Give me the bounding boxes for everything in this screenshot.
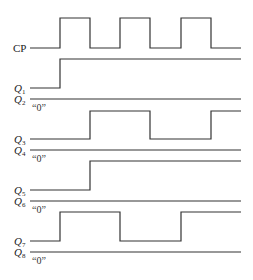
label-subscript: 6 bbox=[22, 201, 26, 209]
waveforms bbox=[30, 18, 241, 252]
label-subscript: 2 bbox=[22, 99, 26, 107]
label-subscript: 5 bbox=[22, 190, 26, 198]
timing-diagram: CPQ1Q2“0”Q3Q4“0”Q5Q6“0”Q7Q8“0” bbox=[0, 0, 253, 280]
waveform-cp bbox=[30, 18, 241, 48]
label-subscript: 1 bbox=[22, 88, 26, 96]
label-subscript: 8 bbox=[22, 252, 26, 260]
constant-zero-note: “0” bbox=[32, 204, 46, 215]
signal-labels: CPQ1Q2“0”Q3Q4“0”Q5Q6“0”Q7Q8“0” bbox=[13, 42, 46, 266]
waveform-q1 bbox=[30, 59, 241, 88]
waveform-q7 bbox=[30, 212, 241, 241]
constant-zero-note: “0” bbox=[32, 153, 46, 164]
label-subscript: 3 bbox=[22, 139, 26, 147]
constant-zero-note: “0” bbox=[32, 102, 46, 113]
waveform-q3 bbox=[30, 111, 241, 139]
label-subscript: 4 bbox=[22, 150, 26, 158]
label-subscript: 7 bbox=[22, 241, 26, 249]
constant-zero-note: “0” bbox=[32, 255, 46, 266]
waveform-q5 bbox=[30, 161, 241, 190]
label-cp: CP bbox=[13, 42, 26, 54]
